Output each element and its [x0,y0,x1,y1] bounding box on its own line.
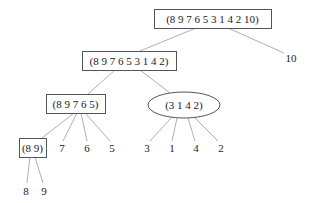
edge-n2-leaf7 [63,113,77,141]
edge-n4-leaf8 [27,157,30,183]
edge-n1-n3 [140,70,170,93]
edge-n3-leaf1 [172,118,177,141]
edge-n2-leaf5 [85,113,110,141]
node-layer: (8 9 7 6 5 3 1 4 2 10)(8 9 7 6 5 3 1 4 2… [20,10,298,198]
tree-node-leaf4: 4 [193,142,199,154]
tree-node-n4: (8 9) [20,139,47,158]
node-label: (8 9 7 6 5) [53,98,99,111]
edge-n2-n4 [42,113,74,138]
tree-diagram: (8 9 7 6 5 3 1 4 2 10)(8 9 7 6 5 3 1 4 2… [0,0,312,203]
tree-node-leaf1: 1 [169,142,175,154]
tree-node-leaf5: 5 [109,142,115,154]
node-label: 1 [169,142,175,154]
node-label: (8 9 7 6 5 3 1 4 2) [90,55,169,68]
node-label: 4 [193,142,199,154]
edge-root-n1 [140,28,196,51]
tree-node-leaf2: 2 [218,142,224,154]
node-label: (8 9 7 6 5 3 1 4 2 10) [166,13,259,26]
edge-n4-leaf9 [35,157,43,183]
node-label: 3 [144,142,150,154]
node-label: 2 [218,142,224,154]
diagram-canvas: (8 9 7 6 5 3 1 4 2 10)(8 9 7 6 5 3 1 4 2… [0,0,312,203]
tree-node-leaf10: 10 [286,52,298,64]
tree-node-leaf7: 7 [59,142,65,154]
edge-n3-leaf2 [194,117,218,141]
tree-node-n3: (3 1 4 2) [148,92,220,118]
edge-root-leaf10 [228,28,284,53]
tree-node-leaf3: 3 [144,142,150,154]
tree-node-leaf8: 8 [23,185,29,197]
tree-node-leaf9: 9 [41,185,47,197]
tree-node-n1: (8 9 7 6 5 3 1 4 2) [83,52,177,71]
node-label: 6 [84,142,90,154]
edge-n3-leaf4 [188,118,195,141]
tree-node-leaf6: 6 [84,142,90,154]
edge-n3-leaf3 [150,117,172,141]
edge-n1-n2 [88,70,115,94]
node-label: (8 9) [22,142,43,155]
tree-node-n2: (8 9 7 6 5) [47,95,106,114]
edge-n2-leaf6 [81,113,87,141]
tree-node-root: (8 9 7 6 5 3 1 4 2 10) [155,10,272,29]
node-label: 8 [23,185,29,197]
node-label: (3 1 4 2) [165,99,203,112]
node-label: 5 [109,142,115,154]
node-label: 7 [59,142,65,154]
node-label: 9 [41,185,47,197]
node-label: 10 [286,52,298,64]
